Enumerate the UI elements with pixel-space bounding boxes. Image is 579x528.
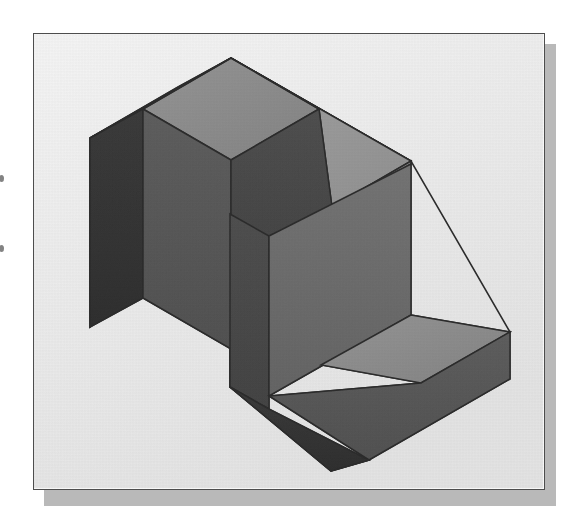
figure-frame xyxy=(33,33,545,490)
illustration-grain xyxy=(34,34,543,488)
margin-bullet-mark-1 xyxy=(0,175,4,182)
page-canvas xyxy=(0,0,579,528)
margin-bullet-mark-2 xyxy=(0,245,4,252)
isometric-block-illustration xyxy=(34,34,543,488)
